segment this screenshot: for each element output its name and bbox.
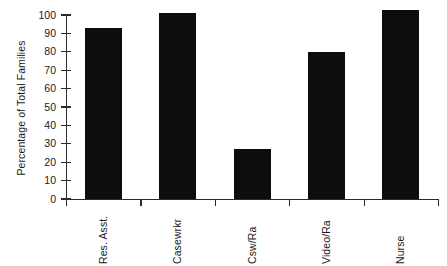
bar-nurse xyxy=(382,10,419,200)
x-tick-1 xyxy=(140,199,141,206)
y-tick-50 xyxy=(61,106,71,107)
y-tick-label-70: 70 xyxy=(16,65,56,76)
x-label-video-ra: Video/Ra xyxy=(319,206,333,264)
bar-casewrkr xyxy=(159,13,196,199)
x-label-text-3: Video/Ra xyxy=(319,206,333,264)
y-tick-30 xyxy=(61,143,71,144)
x-axis-line xyxy=(66,199,438,200)
bar-chart: Percentage of Total Families 0 10 20 30 … xyxy=(0,0,447,266)
bar-csw-ra xyxy=(234,149,271,199)
x-label-casewrkr: Casewrkr xyxy=(170,206,184,264)
y-tick-40 xyxy=(61,125,71,126)
x-label-text-4: Nurse xyxy=(393,206,407,264)
x-label-csw-ra: Csw/Ra xyxy=(245,206,259,264)
y-tick-label-50: 50 xyxy=(16,102,56,113)
bar-res-asst xyxy=(85,28,122,199)
x-label-nurse: Nurse xyxy=(393,206,407,264)
x-tick-5 xyxy=(438,199,439,206)
x-label-text-2: Csw/Ra xyxy=(245,206,259,264)
y-tick-label-100: 100 xyxy=(16,10,56,21)
y-tick-70 xyxy=(61,70,71,71)
y-tick-10 xyxy=(61,180,71,181)
x-tick-0 xyxy=(66,199,67,206)
y-tick-90 xyxy=(61,33,71,34)
x-tick-3 xyxy=(289,199,290,206)
y-tick-label-10: 10 xyxy=(16,175,56,186)
y-tick-100 xyxy=(61,14,71,15)
y-tick-60 xyxy=(61,88,71,89)
y-tick-label-80: 80 xyxy=(16,46,56,57)
x-label-text-1: Casewrkr xyxy=(170,206,184,264)
y-tick-label-0: 0 xyxy=(16,194,56,205)
bar-video-ra xyxy=(308,52,345,199)
y-tick-label-30: 30 xyxy=(16,138,56,149)
y-tick-label-90: 90 xyxy=(16,28,56,39)
y-tick-80 xyxy=(61,51,71,52)
y-tick-label-20: 20 xyxy=(16,157,56,168)
y-tick-label-40: 40 xyxy=(16,120,56,131)
x-label-text-0: Res. Asst. xyxy=(96,206,110,264)
y-tick-label-60: 60 xyxy=(16,83,56,94)
y-tick-20 xyxy=(61,162,71,163)
x-tick-2 xyxy=(215,199,216,206)
x-label-res-asst: Res. Asst. xyxy=(96,206,110,264)
x-tick-4 xyxy=(364,199,365,206)
